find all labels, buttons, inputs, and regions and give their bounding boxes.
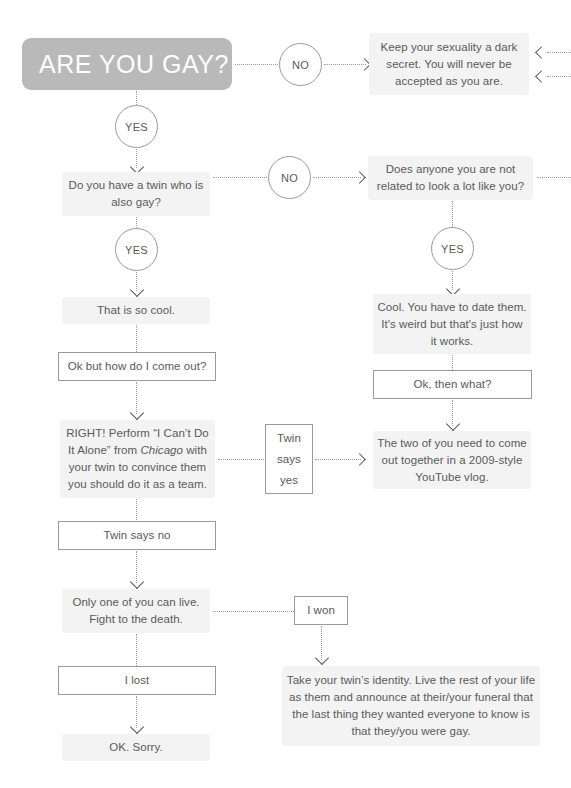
decision-no-1: NO [279, 43, 322, 86]
decision-yes-2: YES [115, 228, 158, 271]
connector-inbound-bottom [547, 76, 571, 77]
arrowhead-down-takeidentity [315, 651, 329, 665]
connector-inbound-top [547, 52, 571, 53]
arrowhead-down-socool [130, 283, 144, 297]
arrowhead-down-oksorry [130, 720, 144, 734]
connector-onlyone-to-iwon [213, 611, 294, 612]
flowchart-canvas: ARE YOU GAY? NO Keep your sexuality a da… [0, 0, 571, 788]
arrowhead-right-twoofyou [353, 453, 366, 466]
node-i-won: I won [294, 596, 348, 625]
node-twin-says-yes: Twin says yes [265, 424, 313, 494]
connector-doesanyone-to-yes3 [452, 201, 453, 227]
node-right-perform: RIGHT! Perform “I Can’t Do It Alone” fro… [60, 420, 215, 498]
connector-onlyone-to-ilost [136, 634, 137, 666]
node-how-come-out: Ok but how do I come out? [58, 352, 216, 381]
decision-yes-1: YES [115, 105, 158, 148]
node-two-of-you: The two of you need to come out together… [373, 431, 531, 489]
chicago-italic: Chicago [140, 444, 183, 456]
node-twin-question: Do you have a twin who is also gay? [62, 172, 210, 216]
title-banner: ARE YOU GAY? [22, 38, 232, 90]
arrowhead-down-twoofyou [446, 417, 460, 431]
node-i-lost: I lost [58, 666, 216, 695]
connector-perform-to-twinyes [218, 459, 264, 460]
connector-twinq-to-yes2 [136, 217, 137, 228]
connector-socool-to-comeout [136, 325, 137, 352]
arrowhead-left-inbound-top [535, 46, 548, 59]
arrowhead-down-onlyone [130, 575, 144, 589]
node-twin-says-no: Twin says no [58, 521, 216, 550]
arrowhead-down-perform [130, 406, 144, 420]
connector-doesanyone-to-edge [537, 177, 571, 178]
decision-yes-3: YES [431, 227, 474, 270]
node-take-identity: Take your twin’s identity. Live the rest… [282, 666, 540, 746]
connector-twinq-to-no2 [213, 177, 267, 178]
node-keep-secret: Keep your sexuality a dark secret. You w… [369, 33, 529, 95]
connector-banner-to-yes1 [136, 91, 137, 105]
node-right-perform-text: RIGHT! Perform “I Can’t Do It Alone” fro… [60, 425, 215, 493]
node-ok-then-what: Ok, then what? [373, 370, 532, 399]
arrowhead-right-doesanyone [353, 171, 366, 184]
arrowhead-left-inbound-bottom [535, 70, 548, 83]
connector-perform-to-twinno [136, 499, 137, 522]
decision-no-2: NO [268, 156, 311, 199]
node-ok-sorry: OK. Sorry. [62, 734, 210, 761]
node-date-them: Cool. You have to date them. It's weird … [373, 294, 531, 354]
node-so-cool: That is so cool. [62, 297, 210, 324]
node-does-anyone: Does anyone you are not related to look … [368, 156, 533, 200]
node-only-one-lives: Only one of you can live. Fight to the d… [62, 589, 210, 633]
connector-banner-to-no1 [235, 64, 278, 65]
